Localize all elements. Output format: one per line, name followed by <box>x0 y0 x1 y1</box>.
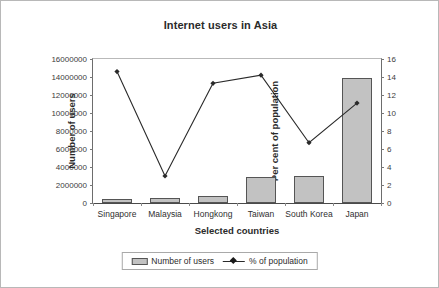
y-axis-right-tick-label: 10 <box>387 109 415 118</box>
line-marker <box>162 173 167 178</box>
y-axis-right-tick-mark <box>381 113 384 114</box>
line-marker <box>114 69 119 74</box>
y-axis-right-tick-label: 6 <box>387 145 415 154</box>
x-axis-tick-label: Malaysia <box>148 209 182 219</box>
y-axis-left-tick-label: 2000000 <box>17 181 87 190</box>
y-axis-right-tick-mark <box>381 77 384 78</box>
x-axis-tick-label: Taiwan <box>248 209 274 219</box>
line-series <box>93 59 381 203</box>
y-axis-right-tick-mark <box>381 59 384 60</box>
y-axis-right-tick-mark <box>381 95 384 96</box>
y-axis-right-tick-mark <box>381 131 384 132</box>
x-axis-tick-label: Japan <box>345 209 368 219</box>
chart-legend: Number of users % of population <box>121 252 317 270</box>
y-axis-left-tick-label: 16000000 <box>17 55 87 64</box>
y-axis-right-tick-mark <box>381 167 384 168</box>
legend-item-line: % of population <box>223 256 308 266</box>
y-axis-left-tick-label: 8000000 <box>17 127 87 136</box>
y-axis-left-tick-label: 10000000 <box>17 109 87 118</box>
y-axis-right-tick-label: 0 <box>387 199 415 208</box>
x-axis-tick-mark <box>333 203 334 206</box>
y-axis-right-tick-label: 2 <box>387 181 415 190</box>
y-axis-left-tick-label: 4000000 <box>17 163 87 172</box>
chart-title: Internet users in Asia <box>1 19 439 31</box>
y-axis-left-tick-label: 14000000 <box>17 73 87 82</box>
line-series-path <box>117 72 357 176</box>
y-axis-right-tick-mark <box>381 149 384 150</box>
x-axis-tick-mark <box>189 203 190 206</box>
y-axis-right-tick-label: 14 <box>387 73 415 82</box>
legend-item-bars: Number of users <box>131 256 214 266</box>
y-axis-left-tick-label: 6000000 <box>17 145 87 154</box>
legend-label-bars: Number of users <box>151 256 214 266</box>
x-axis-tick-mark <box>93 203 94 206</box>
y-axis-left-tick-label: 0 <box>17 199 87 208</box>
x-axis-tick-label: Hongkong <box>194 209 233 219</box>
plot-area: Number of users Per cent of population S… <box>92 58 382 204</box>
legend-label-line: % of population <box>249 256 308 266</box>
x-axis-tick-mark <box>381 203 382 206</box>
line-marker <box>210 81 215 86</box>
legend-bar-swatch-icon <box>131 258 147 265</box>
y-axis-right-tick-label: 16 <box>387 55 415 64</box>
x-axis-tick-label: South Korea <box>285 209 332 219</box>
line-series-markers <box>114 69 359 179</box>
legend-line-marker-icon <box>223 258 245 265</box>
y-axis-right-tick-label: 8 <box>387 127 415 136</box>
chart-container: Internet users in Asia Number of users P… <box>0 0 439 288</box>
x-axis-tick-mark <box>285 203 286 206</box>
y-axis-left-tick-label: 12000000 <box>17 91 87 100</box>
x-axis-tick-mark <box>141 203 142 206</box>
y-axis-right-tick-label: 12 <box>387 91 415 100</box>
x-axis-tick-mark <box>237 203 238 206</box>
x-axis-tick-label: Singapore <box>98 209 137 219</box>
y-axis-right-tick-label: 4 <box>387 163 415 172</box>
x-axis-title: Selected countries <box>93 225 381 236</box>
y-axis-right-tick-mark <box>381 185 384 186</box>
